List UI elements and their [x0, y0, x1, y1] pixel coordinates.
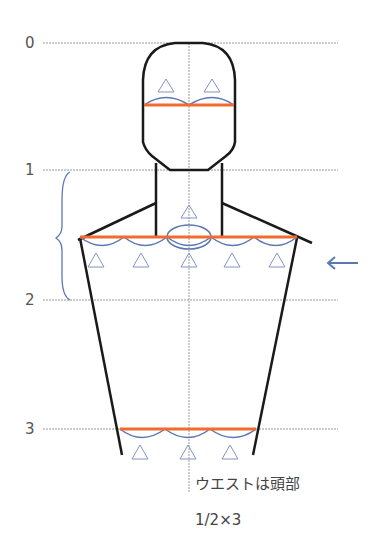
scale-label-3: 3	[25, 422, 35, 437]
proportion-diagram	[0, 0, 373, 558]
triangle-icon	[132, 445, 148, 459]
triangle-icon	[224, 253, 240, 267]
torso-right	[253, 238, 297, 455]
caption-line-1: ウエストは頭部	[195, 472, 300, 496]
waist-measure	[120, 429, 256, 459]
triangle-icon	[204, 79, 220, 92]
triangle-icon	[158, 79, 174, 92]
brace-icon	[56, 172, 70, 300]
triangle-icon	[180, 445, 196, 459]
triangle-icon	[133, 253, 149, 267]
arrow-left-icon	[328, 257, 358, 269]
scale-label-1: 1	[25, 163, 35, 178]
scale-label-2: 2	[25, 293, 35, 308]
shoulder-left	[78, 203, 156, 240]
triangle-icon	[222, 445, 238, 459]
torso-left	[80, 238, 122, 455]
triangle-icon	[88, 253, 104, 267]
triangle-icon	[269, 253, 285, 267]
guide-lines	[43, 43, 338, 493]
scale-label-0: 0	[25, 36, 35, 51]
caption-line-2: 1/2×3	[195, 508, 241, 532]
